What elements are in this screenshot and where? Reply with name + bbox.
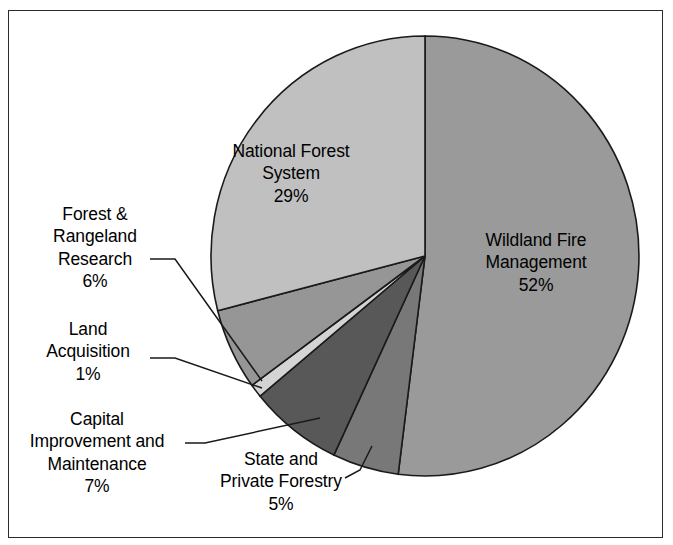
label-line-1: Wildland Fire bbox=[441, 229, 631, 251]
label-line-2: Private Forestry bbox=[196, 470, 366, 492]
slice-label-forest-and-rangeland-research: Forest & Rangeland Research 6% bbox=[18, 203, 172, 293]
label-percent: 5% bbox=[196, 493, 366, 515]
label-percent: 52% bbox=[441, 274, 631, 296]
label-line-1: National Forest bbox=[196, 140, 386, 162]
slice-label-national-forest-system: National Forest System 29% bbox=[196, 140, 386, 207]
label-percent: 1% bbox=[18, 363, 158, 385]
slice-label-state-and-private-forestry: State and Private Forestry 5% bbox=[196, 448, 366, 515]
label-line-2: Improvement and bbox=[4, 430, 190, 452]
label-line-2: Rangeland bbox=[18, 225, 172, 247]
pie-chart-figure: National Forest System 29% Wildland Fire… bbox=[0, 0, 673, 545]
label-line-1: State and bbox=[196, 448, 366, 470]
label-line-1: Land bbox=[18, 318, 158, 340]
label-percent: 6% bbox=[18, 270, 172, 292]
label-line-2: Management bbox=[441, 251, 631, 273]
slice-label-capital-improvement-and-maintenance: Capital Improvement and Maintenance 7% bbox=[4, 408, 190, 498]
label-line-3: Maintenance bbox=[4, 453, 190, 475]
label-line-1: Forest & bbox=[18, 203, 172, 225]
label-line-2: Acquisition bbox=[18, 340, 158, 362]
label-percent: 7% bbox=[4, 475, 190, 497]
label-percent: 29% bbox=[196, 185, 386, 207]
slice-label-wildland-fire-management: Wildland Fire Management 52% bbox=[441, 229, 631, 296]
label-line-2: System bbox=[196, 162, 386, 184]
slice-label-land-acquisition: Land Acquisition 1% bbox=[18, 318, 158, 385]
label-line-1: Capital bbox=[4, 408, 190, 430]
label-line-3: Research bbox=[18, 248, 172, 270]
